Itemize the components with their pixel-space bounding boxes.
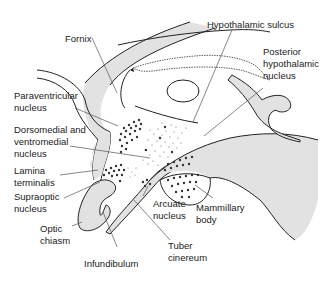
label-mammillary-body: Mammillary body [196,202,245,226]
label-supraoptic-nucleus: Supraoptic nucleus [14,191,59,215]
optic-chiasm [78,180,116,231]
label-arcuate-nucleus: Arcuate nucleus [153,198,186,222]
label-optic-chiasm: Optic chiasm [40,223,70,247]
label-paraventricular-nucleus: Paraventricular nucleus [14,90,78,114]
label-fornix: Fornix [65,33,91,45]
label-dorsomedial-ventromedial-nucleus: Dorsomedial and ventromedial nucleus [14,124,86,160]
paraventricular-dots [119,119,142,153]
posterior-region [228,75,300,142]
label-hypothalamic-sulcus: Hypothalamic sulcus [207,19,294,31]
label-posterior-hypothalamic-nucleus: Posterior hypothalamic nucleus [263,46,319,82]
label-infundibulum: Infundibulum [84,258,138,270]
label-tuber-cinereum: Tuber cinereum [168,240,207,264]
interthalamic-adhesion [167,80,199,102]
thalamus-texture [133,55,270,80]
label-lamina-terminalis: Lamina terminalis [14,165,55,189]
